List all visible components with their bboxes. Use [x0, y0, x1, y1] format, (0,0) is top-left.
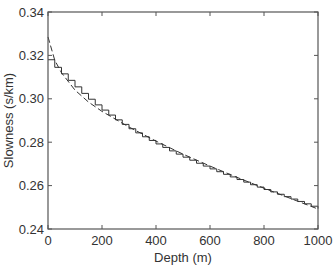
plot-lines	[48, 37, 318, 209]
y-tick-label: 0.26	[19, 178, 44, 193]
axis-ticks: 020040060080010000.240.260.280.300.320.3…	[19, 5, 333, 249]
dashed-series-line	[48, 37, 318, 209]
y-tick-label: 0.30	[19, 91, 44, 106]
y-tick-label: 0.34	[19, 5, 44, 20]
chart-canvas: 020040060080010000.240.260.280.300.320.3…	[0, 0, 336, 271]
y-tick-label: 0.24	[19, 222, 44, 237]
plot-frame	[48, 12, 318, 229]
x-tick-label: 1000	[304, 233, 333, 248]
x-axis-label: Depth (m)	[154, 250, 212, 265]
y-tick-label: 0.32	[19, 48, 44, 63]
x-tick-label: 600	[199, 233, 221, 248]
x-tick-label: 400	[145, 233, 167, 248]
x-tick-label: 200	[91, 233, 113, 248]
step-series-line	[48, 60, 318, 209]
chart: 020040060080010000.240.260.280.300.320.3…	[0, 0, 336, 271]
y-axis-label: Slowness (s/km)	[1, 73, 16, 168]
x-tick-label: 0	[44, 233, 51, 248]
y-tick-label: 0.28	[19, 135, 44, 150]
x-tick-label: 800	[253, 233, 275, 248]
